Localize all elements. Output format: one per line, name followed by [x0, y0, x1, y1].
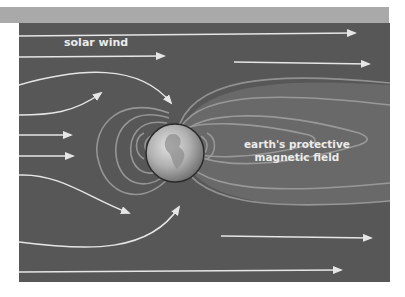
wind-arrow — [19, 93, 101, 115]
magnetic-field-label-line1: earth's protective — [244, 138, 350, 151]
solar-wind-label: solar wind — [64, 36, 128, 49]
magnetic-field-label-line2: magnetic field — [244, 151, 350, 164]
header-bar — [0, 7, 389, 23]
wind-arrow — [221, 236, 371, 238]
wind-arrow — [19, 72, 171, 103]
earth-globe — [146, 124, 204, 182]
wind-arrow — [234, 62, 369, 64]
magnetic-field-label: earth's protective magnetic field — [244, 138, 350, 164]
wind-arrow — [19, 56, 164, 57]
wind-arrow — [19, 175, 129, 213]
magnetosphere-diagram: solar wind earth's protective magnetic f… — [19, 23, 390, 282]
wind-arrow — [19, 207, 179, 247]
wind-arrow — [19, 270, 341, 272]
